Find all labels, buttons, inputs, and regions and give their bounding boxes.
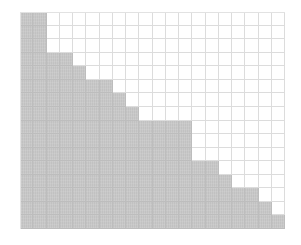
- grid-cell-filled: [73, 175, 86, 189]
- grid-cell-empty: [272, 12, 285, 26]
- grid-cell-filled: [100, 107, 113, 121]
- grid-cell-empty: [113, 53, 126, 67]
- grid-cell-empty: [259, 12, 272, 26]
- grid-cell-empty: [259, 39, 272, 53]
- grid-cell-filled: [232, 188, 245, 202]
- grid-cell-empty: [126, 26, 139, 40]
- grid-cell-filled: [60, 93, 73, 107]
- grid-cell-filled: [33, 161, 46, 175]
- grid-cell-filled: [73, 215, 86, 229]
- grid-cell-empty: [73, 26, 86, 40]
- grid-cell-empty: [272, 134, 285, 148]
- grid-cell-filled: [33, 202, 46, 216]
- grid-cell-filled: [20, 39, 33, 53]
- grid-cell-empty: [179, 80, 192, 94]
- grid-cell-filled: [166, 188, 179, 202]
- grid-cell-filled: [73, 80, 86, 94]
- grid-cell-filled: [33, 12, 46, 26]
- grid-cell-empty: [206, 134, 219, 148]
- grid-cell-empty: [192, 93, 205, 107]
- grid-cell-empty: [47, 26, 60, 40]
- grid-cell-filled: [20, 93, 33, 107]
- grid-cell-filled: [113, 161, 126, 175]
- grid-cell-filled: [86, 121, 99, 135]
- grid-cell-filled: [33, 53, 46, 67]
- grid-cell-filled: [179, 215, 192, 229]
- grid-cell-filled: [47, 107, 60, 121]
- grid-cell-filled: [47, 80, 60, 94]
- grid-cell-filled: [192, 188, 205, 202]
- grid-cell-filled: [20, 188, 33, 202]
- grid-cell-filled: [86, 148, 99, 162]
- grid-cell-empty: [206, 93, 219, 107]
- grid-cell-filled: [60, 107, 73, 121]
- grid-cell-filled: [153, 202, 166, 216]
- grid-cell-filled: [259, 202, 272, 216]
- grid-cell-filled: [86, 161, 99, 175]
- grid-cell-filled: [166, 215, 179, 229]
- grid-cell-empty: [139, 53, 152, 67]
- grid-cell-empty: [192, 134, 205, 148]
- grid-cell-empty: [47, 39, 60, 53]
- grid-cell-empty: [153, 53, 166, 67]
- grid-cell-empty: [179, 26, 192, 40]
- grid-cell-filled: [60, 161, 73, 175]
- grid-cell-empty: [179, 39, 192, 53]
- figure-canvas: [0, 0, 301, 245]
- grid-cell-empty: [166, 93, 179, 107]
- grid-cell-empty: [245, 12, 258, 26]
- grid-cell-filled: [179, 134, 192, 148]
- grid-cell-filled: [166, 161, 179, 175]
- grid-cell-filled: [86, 107, 99, 121]
- grid-cell-empty: [153, 107, 166, 121]
- grid-cell-filled: [232, 215, 245, 229]
- grid-cell-empty: [73, 53, 86, 67]
- grid-cell-empty: [272, 188, 285, 202]
- grid-cell-filled: [100, 80, 113, 94]
- grid-cell-filled: [100, 134, 113, 148]
- grid-cell-filled: [192, 161, 205, 175]
- grid-cell-empty: [166, 39, 179, 53]
- grid-cell-empty: [219, 161, 232, 175]
- grid-cell-empty: [232, 80, 245, 94]
- grid-cell-empty: [219, 66, 232, 80]
- grid-cell-filled: [47, 175, 60, 189]
- grid-cell-empty: [100, 53, 113, 67]
- grid-cell-filled: [33, 188, 46, 202]
- grid-cell-filled: [33, 80, 46, 94]
- grid-cell-filled: [20, 161, 33, 175]
- grid-cell-filled: [153, 188, 166, 202]
- grid-cell-empty: [259, 175, 272, 189]
- grid-cell-empty: [259, 80, 272, 94]
- grid-cell-empty: [47, 12, 60, 26]
- grid-cell-filled: [126, 121, 139, 135]
- grid-cell-empty: [245, 39, 258, 53]
- grid-cell-empty: [272, 202, 285, 216]
- grid-cell-empty: [232, 148, 245, 162]
- grid-cell-empty: [166, 12, 179, 26]
- grid-cell-filled: [206, 175, 219, 189]
- grid-cell-empty: [192, 53, 205, 67]
- grid-cell-filled: [113, 175, 126, 189]
- grid-cell-empty: [245, 93, 258, 107]
- grid-cell-filled: [126, 215, 139, 229]
- grid-cell-filled: [113, 134, 126, 148]
- grid-cell-empty: [86, 53, 99, 67]
- grid-cell-filled: [20, 202, 33, 216]
- grid-cell-empty: [139, 80, 152, 94]
- grid-cell-filled: [179, 175, 192, 189]
- grid-cell-filled: [272, 215, 285, 229]
- grid-cell-empty: [192, 66, 205, 80]
- grid-cell-filled: [60, 202, 73, 216]
- grid-cell-empty: [232, 93, 245, 107]
- grid-cell-filled: [33, 66, 46, 80]
- grid-cell-filled: [20, 121, 33, 135]
- grid-cell-filled: [33, 107, 46, 121]
- grid-cell-empty: [100, 26, 113, 40]
- grid-cell-filled: [192, 202, 205, 216]
- grid-cell-filled: [100, 161, 113, 175]
- grid-cell-empty: [232, 12, 245, 26]
- grid-cell-filled: [73, 202, 86, 216]
- grid-cell-empty: [206, 66, 219, 80]
- grid-cell-empty: [259, 93, 272, 107]
